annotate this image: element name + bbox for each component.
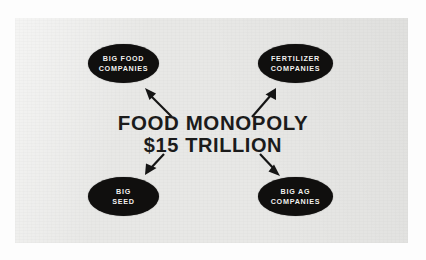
node-big-ag-companies-line2: Companies (271, 197, 321, 207)
center-headline: FOOD MONOPOLY $15 TRILLION (0, 112, 426, 156)
node-big-ag-companies[interactable]: Big Ag Companies (258, 177, 333, 216)
node-fertilizer-companies-line1: Fertilizer (271, 54, 320, 64)
node-big-food-companies[interactable]: Big Food Companies (88, 44, 159, 83)
node-big-food-companies-line1: Big Food (103, 54, 145, 64)
node-fertilizer-companies-line2: Companies (271, 64, 321, 74)
node-big-seed-line2: Seed (112, 197, 135, 207)
center-headline-line1: FOOD MONOPOLY (0, 112, 426, 134)
node-big-seed[interactable]: Big Seed (88, 177, 159, 216)
node-fertilizer-companies[interactable]: Fertilizer Companies (258, 44, 333, 83)
diagram-screenshot: Big Food Companies Fertilizer Companies … (0, 0, 426, 260)
center-headline-line2: $15 TRILLION (0, 134, 426, 156)
node-big-ag-companies-line1: Big Ag (281, 187, 311, 197)
node-big-food-companies-line2: Companies (99, 64, 149, 74)
node-big-seed-line1: Big (116, 187, 131, 197)
